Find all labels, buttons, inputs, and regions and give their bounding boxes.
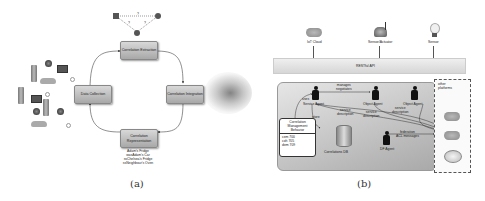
other-platform-globe-icon <box>444 150 462 163</box>
sensor-ball-icon <box>57 108 64 115</box>
connector-line <box>433 46 434 58</box>
other-platforms-label: other platforms <box>435 80 470 92</box>
other-platforms-box: other platforms <box>434 79 471 173</box>
sensor-label: Sensor <box>428 40 439 44</box>
display-icon <box>57 65 68 73</box>
object-agent-icon <box>372 86 379 100</box>
graph-label-1: ? <box>137 12 139 16</box>
car-icon <box>31 121 47 127</box>
graph-label-2: ? <box>128 21 130 25</box>
df-agent-icon <box>383 131 390 145</box>
caption-a: (a) <box>130 178 144 189</box>
display-icon <box>31 95 42 103</box>
sensor-base-icon <box>432 33 437 37</box>
restful-api-bar: RESTful API <box>273 58 466 74</box>
correlation-representation-box: Correlation Representation <box>120 129 158 148</box>
service-agent-label: Service Agent <box>303 102 324 106</box>
connector-line <box>313 46 314 58</box>
iot-cloud-label: IoT Cloud <box>307 40 322 44</box>
service-description-label-2: service description <box>363 110 379 118</box>
fridge-icon <box>18 87 24 104</box>
correlations-db-icon <box>336 125 352 147</box>
sensor-ball-icon <box>33 108 40 115</box>
graph-label-3: ? <box>144 21 146 25</box>
correlations-db-label: Correlations DB <box>324 150 348 154</box>
car-icon <box>40 78 56 84</box>
cm-behavior-title: Correlation Management Behavior <box>280 119 315 134</box>
object-agent-icon <box>411 86 418 100</box>
restful-api-label: RESTful API <box>356 64 375 68</box>
correlation-integration-box: Correlation Integration <box>166 85 204 104</box>
small-sensor-icon <box>66 123 71 128</box>
sensor-ball-icon <box>45 60 52 67</box>
correlation-management-behavior-box: Correlation Management Behavior cem 700 … <box>279 118 316 157</box>
other-platform-cloud-icon <box>444 112 460 121</box>
sensor-actuator-label: Sensor/Actuator <box>368 40 392 44</box>
service-agent-icon <box>312 86 319 100</box>
manages-negotiates-label: manages negotiates <box>336 83 352 91</box>
fridge-icon <box>43 99 49 116</box>
caption-b: (b) <box>357 178 371 189</box>
correlation-network-cloud <box>204 72 252 114</box>
other-platform-cloud-icon <box>444 131 460 140</box>
federation-label: federation ACL messages <box>396 130 419 138</box>
iot-cloud-icon <box>306 28 322 37</box>
antenna-icon <box>385 22 386 30</box>
correlation-graph-icon <box>110 10 170 40</box>
df-agent-label: DF Agent <box>380 147 394 151</box>
service-description-label-3: service description <box>392 106 408 114</box>
connector-line <box>379 46 380 58</box>
representation-examples: Adam's Fridge wasAdam's Car ssChelsea's … <box>115 149 161 165</box>
small-sensor-icon <box>45 92 50 97</box>
uses-label: uses <box>302 97 309 101</box>
data-collection-box: Data Collection <box>74 85 112 104</box>
correlation-extraction-box: Correlation Extraction <box>120 41 158 60</box>
object-agent-label-1: Object Agent <box>363 102 382 106</box>
cm-behavior-items: cem 700 coh 705 dem 709 <box>280 134 315 148</box>
fridge-icon <box>31 65 37 82</box>
small-sensor-icon <box>70 77 75 82</box>
service-description-label-1: service description <box>337 108 353 116</box>
